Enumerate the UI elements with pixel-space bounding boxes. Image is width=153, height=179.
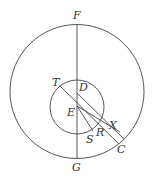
geometry-diagram: F G T D E S R X C <box>0 0 153 179</box>
label-T: T <box>52 76 61 89</box>
label-X: X <box>108 119 118 132</box>
label-S: S <box>86 133 94 146</box>
label-R: R <box>95 126 104 139</box>
label-C: C <box>117 143 126 156</box>
label-G: G <box>72 161 81 174</box>
label-E: E <box>66 106 75 119</box>
label-D: D <box>78 81 88 94</box>
label-F: F <box>72 9 81 22</box>
line-ES <box>77 106 93 131</box>
